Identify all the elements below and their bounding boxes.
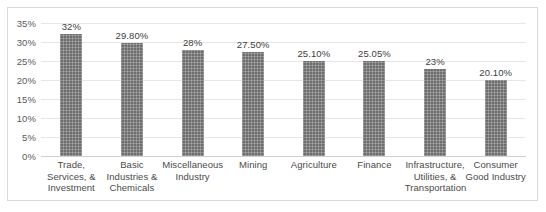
x-category-label-line: Services, & (41, 171, 102, 183)
bar-value-label: 25.10% (297, 48, 330, 59)
bar[interactable] (242, 52, 264, 157)
x-category-label-line: Trade, (41, 159, 102, 171)
bar-slot: 25.05% (344, 23, 405, 156)
y-tick-label: 25% (17, 56, 36, 67)
bar-slot: 28% (162, 23, 223, 156)
bar-slot: 29.80% (102, 23, 163, 156)
bar[interactable] (424, 69, 446, 156)
x-category-label: Trade,Services, &Investment (41, 159, 102, 194)
x-category-label: BasicIndustries &Chemicals (102, 159, 163, 194)
x-category-label-line: Chemicals (102, 182, 163, 194)
x-category-label-line: Agriculture (284, 159, 345, 171)
x-category-label-line: Miscellaneous (162, 159, 223, 171)
x-category-label-line: Consumer (465, 159, 526, 171)
y-tick-label: 0% (22, 151, 36, 162)
x-category-label-line: Mining (223, 159, 284, 171)
bar-value-label: 23% (425, 56, 444, 67)
y-tick-label: 10% (17, 113, 36, 124)
x-category-label: Infrastructure,Utilities, &Transportatio… (405, 159, 466, 194)
x-category-label-line: Industries & (102, 171, 163, 183)
x-category-label: ConsumerGood Industry (465, 159, 526, 182)
bar-slot: 20.10% (465, 23, 526, 156)
x-category-label-line: Basic (102, 159, 163, 171)
x-category-label-line: Industry (162, 171, 223, 183)
bar-value-label: 29.80% (116, 30, 149, 41)
bar-value-label: 28% (183, 37, 202, 48)
plot-area: 35%30%25%20%15%10%5%0% 32%29.80%28%27.50… (41, 23, 526, 156)
y-tick-label: 30% (17, 37, 36, 48)
x-category-label-line: Good Industry (465, 171, 526, 183)
bar-slot: 23% (405, 23, 466, 156)
y-tick-label: 20% (17, 75, 36, 86)
bar[interactable] (182, 50, 204, 156)
y-tick-label: 15% (17, 94, 36, 105)
bar[interactable] (363, 61, 385, 156)
bar[interactable] (121, 43, 143, 156)
bar-slot: 32% (41, 23, 102, 156)
bar-value-label: 32% (62, 21, 81, 32)
bar[interactable] (60, 34, 82, 156)
bar[interactable] (303, 61, 325, 156)
x-category-label-line: Finance (344, 159, 405, 171)
chart-container: 35%30%25%20%15%10%5%0% 32%29.80%28%27.50… (7, 7, 538, 201)
bar-slot: 25.10% (284, 23, 345, 156)
bar-value-label: 25.05% (358, 48, 391, 59)
bar[interactable] (485, 80, 507, 156)
gridline-0 (41, 156, 526, 157)
x-category-label-line: Investment (41, 182, 102, 194)
x-category-label: Mining (223, 159, 284, 171)
x-category-label: Agriculture (284, 159, 345, 171)
x-category-label: Finance (344, 159, 405, 171)
y-tick-label: 5% (22, 132, 36, 143)
x-axis-category-labels: Trade,Services, &InvestmentBasicIndustri… (41, 159, 526, 201)
bar-value-label: 27.50% (237, 39, 270, 50)
x-category-label: MiscellaneousIndustry (162, 159, 223, 182)
y-tick-label: 35% (17, 18, 36, 29)
bar-slot: 27.50% (223, 23, 284, 156)
bar-value-label: 20.10% (479, 67, 512, 78)
x-category-label-line: Utilities, & (405, 171, 466, 183)
x-category-label-line: Transportation (405, 182, 466, 194)
x-category-label-line: Infrastructure, (405, 159, 466, 171)
